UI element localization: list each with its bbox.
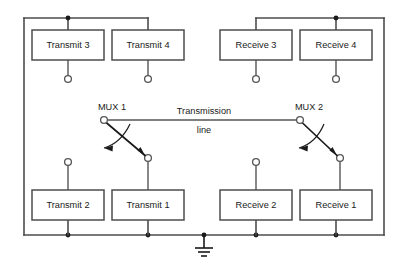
mux-1-switch[interactable]: MUX 1 [98, 102, 145, 156]
receive-2-terminal [253, 159, 260, 166]
receive-3-terminal [253, 76, 260, 83]
block-receive-3[interactable]: Receive 3 [220, 30, 292, 60]
circuit-diagram: Transmission line MUX 1 MUX 2 [0, 0, 404, 265]
receive-3-label: Receive 3 [236, 40, 277, 50]
receive-1-label: Receive 1 [316, 200, 357, 210]
transmit-3-label: Transmit 3 [46, 40, 89, 50]
mux-2-arm-arrowhead [330, 147, 338, 156]
mux-1-rotation-arc [104, 124, 130, 148]
transmit-4-terminal [145, 76, 152, 83]
block-receive-1[interactable]: Receive 1 [300, 190, 372, 220]
transmit-1-label: Transmit 1 [126, 200, 169, 210]
block-transmit-4[interactable]: Transmit 4 [112, 30, 184, 60]
mux-2-rotation-arc [299, 124, 324, 148]
transmission-line-label-bottom: line [197, 125, 211, 135]
receive-4-terminal [333, 76, 340, 83]
junction-receive-top [334, 16, 339, 21]
mux-2-label: MUX 2 [295, 102, 323, 112]
junction-transmit-top [66, 16, 71, 21]
block-transmit-3[interactable]: Transmit 3 [32, 30, 104, 60]
receive-2-label: Receive 2 [236, 200, 277, 210]
mux-1-label: MUX 1 [98, 102, 126, 112]
transmit-4-label: Transmit 4 [126, 40, 169, 50]
block-receive-4[interactable]: Receive 4 [300, 30, 372, 60]
top-row-terminals [65, 60, 340, 82]
block-transmit-2[interactable]: Transmit 2 [32, 190, 104, 220]
mux-2-pivot-terminal[interactable] [297, 117, 304, 124]
block-receive-2[interactable]: Receive 2 [220, 190, 292, 220]
transmit-2-label: Transmit 2 [46, 200, 89, 210]
mux-1-arm-arrowhead [138, 147, 146, 156]
transmission-line: Transmission line [104, 106, 300, 135]
ground-symbol [195, 235, 213, 256]
mux-1-pivot-terminal[interactable] [101, 117, 108, 124]
mux-2-switch[interactable]: MUX 2 [295, 102, 337, 156]
transmit-3-terminal [65, 76, 72, 83]
transmit-2-terminal [65, 159, 72, 166]
circuit-schematic-canvas: Transmission line MUX 1 MUX 2 [0, 0, 404, 265]
block-transmit-1[interactable]: Transmit 1 [112, 190, 184, 220]
receive-4-label: Receive 4 [316, 40, 357, 50]
transmission-line-label-top: Transmission [177, 106, 231, 116]
